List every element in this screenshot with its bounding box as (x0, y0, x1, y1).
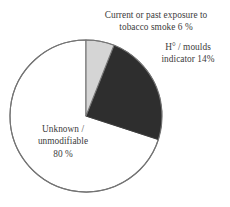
pie-chart-figure: Current or past exposure to tobacco smok… (0, 0, 230, 207)
tobacco-smoke-label: Current or past exposure to tobacco smok… (84, 9, 228, 34)
moulds-indicator-label: H° / moulds indicator 14% (146, 41, 230, 66)
unknown-unmodifiable-label: Unknown / unmodifiable 80 % (14, 123, 112, 160)
